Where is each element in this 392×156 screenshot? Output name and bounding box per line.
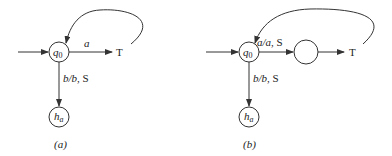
edge-q0-to-ha-label: b/b, S xyxy=(253,72,279,84)
diagram-a: q0 a T b/b, S ha (a) xyxy=(18,10,143,151)
diagram-b: q0 a/a, S T b/b, S ha (b) xyxy=(206,9,374,151)
loop-T-to-q0 xyxy=(66,10,143,44)
target-T: T xyxy=(349,46,356,58)
state-middle xyxy=(294,40,318,64)
edge-q0-to-ha-label: b/b, S xyxy=(63,72,89,84)
caption-a: (a) xyxy=(54,138,67,151)
caption-b: (b) xyxy=(243,138,256,151)
diagram-canvas: q0 a T b/b, S ha (a) q0 a/a, S T b/b, S … xyxy=(0,0,392,156)
target-T: T xyxy=(116,46,123,58)
edge-q0-to-middle-label: a/a, S xyxy=(257,36,283,48)
edge-q0-to-T-label: a xyxy=(84,37,90,49)
